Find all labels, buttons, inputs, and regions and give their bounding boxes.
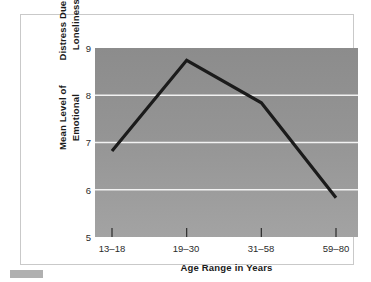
- y-tick-label-5: 5: [69, 232, 91, 243]
- data-series-line: [112, 60, 336, 198]
- plot-area: [95, 48, 358, 237]
- y-tick-label-7: 7: [69, 137, 91, 148]
- x-tick-label-59-80: 59–80: [306, 243, 366, 254]
- x-tick-label-13-18: 13–18: [82, 243, 142, 254]
- x-tick-label-19-30: 19–30: [156, 243, 216, 254]
- x-axis-title: Age Range in Years: [95, 262, 358, 273]
- figure-marker-swatch: [10, 270, 43, 278]
- x-axis-tick-marks: [112, 228, 336, 237]
- line-chart-plot: [95, 48, 358, 237]
- y-tick-label-9: 9: [69, 43, 91, 54]
- y-tick-label-8: 8: [69, 90, 91, 101]
- y-axis-tick-labels: 9 8 7 6 5: [67, 15, 91, 282]
- x-tick-label-31-58: 31–58: [231, 243, 291, 254]
- y-tick-label-6: 6: [69, 185, 91, 196]
- figure-frame: Mean Level of Emotional Distress Due to …: [20, 14, 354, 265]
- x-axis-tick-labels: 13–18 19–30 31–58 59–80: [95, 243, 358, 257]
